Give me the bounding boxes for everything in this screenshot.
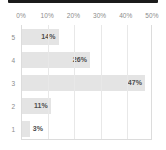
y-axis-tick-labels: 54321 [0,25,19,140]
bar: 26% [22,52,90,68]
x-tick-label: 40% [119,12,132,19]
x-tick-label: 0% [16,12,26,19]
bar: 14% [22,29,59,45]
y-tick-label: 4 [11,56,15,63]
bar-row: 11% [22,98,153,114]
bar-series: 14%26%47%11%3% [22,25,151,139]
bar-row: 47% [22,75,153,91]
window-top-edge [8,0,158,3]
bar: 11% [22,98,51,114]
bar-row: 26% [22,52,153,68]
horizontal-bar-chart: 0%10%20%30%40%50% 14%26%47%11%3% 54321 [0,6,166,150]
bar-row: 14% [22,29,153,45]
x-tick-label: 30% [93,12,106,19]
y-tick-label: 1 [11,125,15,132]
chart-screenshot: 0%10%20%30%40%50% 14%26%47%11%3% 54321 [0,0,166,150]
bar-value-label: 26% [73,56,90,63]
y-tick-label: 5 [11,33,15,40]
bar-value-label: 14% [41,33,58,40]
bar-value-label: 3% [30,125,43,132]
gridline [74,25,75,139]
x-axis-tick-labels: 0%10%20%30%40%50% [21,12,152,24]
x-tick-label: 50% [145,12,158,19]
x-tick-label: 10% [41,12,54,19]
bar-value-label: 47% [128,79,145,86]
bar [22,121,30,137]
bar-row: 3% [22,121,153,137]
gridline [48,25,49,139]
gridline [127,25,128,139]
gridline [101,25,102,139]
y-tick-label: 2 [11,102,15,109]
y-tick-label: 3 [11,79,15,86]
x-tick-label: 20% [67,12,80,19]
plot-area: 14%26%47%11%3% [21,25,152,140]
